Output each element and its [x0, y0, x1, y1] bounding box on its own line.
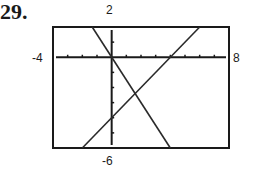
graph-lines	[82, 27, 199, 148]
line-ascending	[82, 27, 199, 148]
line-descending	[92, 27, 170, 148]
graph-window	[0, 0, 257, 169]
